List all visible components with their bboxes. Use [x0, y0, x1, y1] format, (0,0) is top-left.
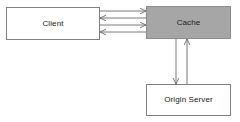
- diagram-canvas: Client Cache Origin Server: [0, 0, 240, 122]
- node-origin-server-label: Origin Server: [164, 96, 212, 104]
- node-client[interactable]: Client: [6, 7, 100, 40]
- node-client-label: Client: [42, 20, 63, 28]
- node-origin-server[interactable]: Origin Server: [146, 84, 231, 116]
- node-cache-label: Cache: [177, 19, 201, 27]
- node-cache[interactable]: Cache: [146, 6, 231, 39]
